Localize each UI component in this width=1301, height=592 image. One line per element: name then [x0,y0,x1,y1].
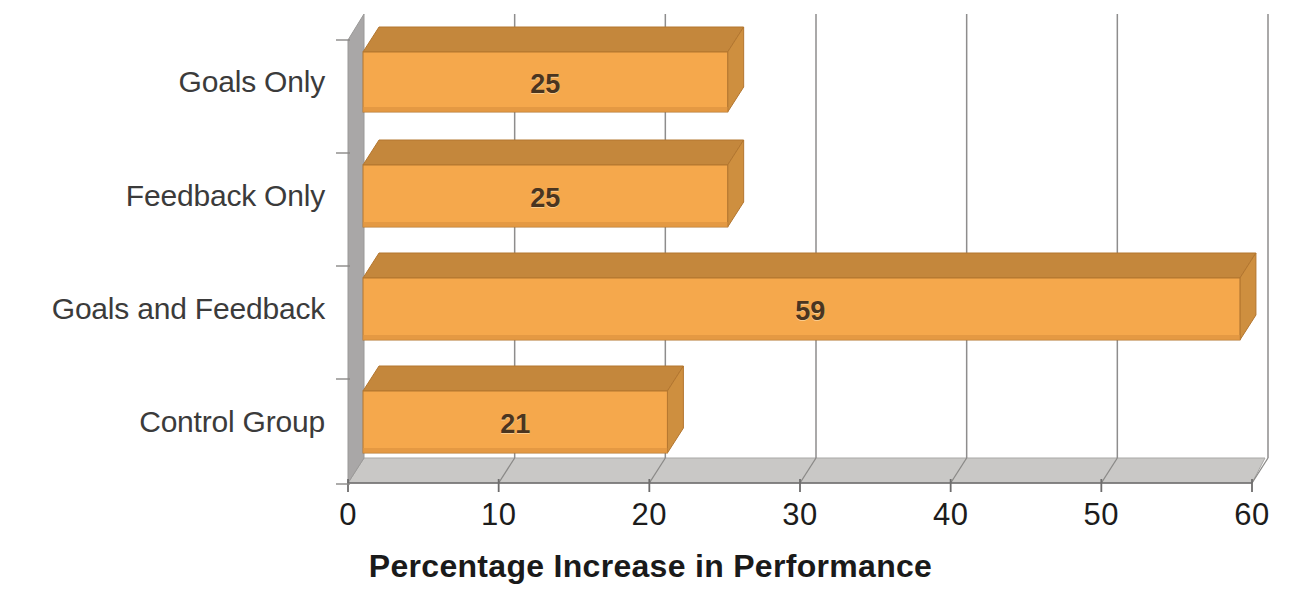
category-label-3: Control Group [139,405,325,439]
bar-series [363,27,1256,453]
category-label-2: Goals and Feedback [52,292,325,326]
category-label-1: Feedback Only [126,179,325,213]
plot-floor [348,458,1265,483]
x-tick-label-20: 20 [632,497,667,533]
bar-value-label-3: 21 [500,409,530,440]
x-tick-label-30: 30 [782,497,817,533]
plot-left-wall [348,14,364,483]
bar-top-face-0 [363,27,744,52]
bar-top-face-1 [363,140,744,165]
x-tick-label-50: 50 [1084,497,1119,533]
bar-top-face-3 [363,366,683,391]
x-axis-title: Percentage Increase in Performance [0,548,1301,585]
bar-chart: Goals OnlyFeedback OnlyGoals and Feedbac… [0,0,1301,592]
category-label-0: Goals Only [179,65,325,99]
x-tick-label-60: 60 [1234,497,1269,533]
bar-value-label-0: 25 [530,69,560,100]
bar-bottom-shade-2 [363,335,1240,340]
x-tick-label-10: 10 [481,497,516,533]
floor-surface [348,458,1265,483]
bar-bottom-shade-1 [363,222,728,227]
bar-bottom-shade-0 [363,107,728,112]
bar-value-label-2: 59 [795,296,825,327]
bar-value-label-1: 25 [530,183,560,214]
x-tick-label-0: 0 [339,497,357,533]
bar-top-face-2 [363,253,1256,278]
x-tick-label-40: 40 [933,497,968,533]
bar-bottom-shade-3 [363,448,667,453]
left-wall-surface [348,14,364,483]
